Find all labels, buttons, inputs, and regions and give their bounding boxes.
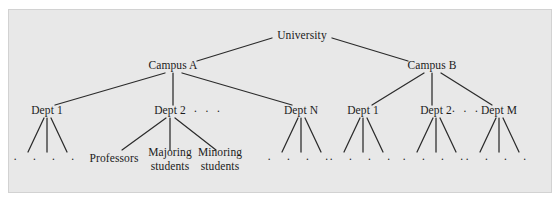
tree-diagram-figure: UniversityCampus ACampus BDept 1Dept 2De… [0, 0, 560, 203]
tree-node-dept: Dept M [481, 104, 517, 118]
tree-node-leaf: Majoringstudents [148, 146, 192, 173]
tree-node-campus: Campus A [148, 59, 197, 73]
leaf-dot-group: · · · · [13, 153, 80, 165]
tree-node-campus: Campus B [407, 59, 456, 73]
tree-node-dept: Dept N [284, 104, 318, 118]
leaf-dot-group: · · · · [465, 153, 532, 165]
tree-node-dept: Dept 1 [347, 104, 379, 118]
dept-ellipsis: · · · [193, 105, 222, 117]
tree-node-dept: Dept 2 [420, 104, 452, 118]
leaf-dot-group: · · · · [329, 153, 396, 165]
tree-node-dept: Dept 1 [31, 104, 63, 118]
tree-node-leaf: Minoringstudents [198, 146, 242, 173]
tree-node-dept: Dept 2 [154, 104, 186, 118]
tree-node-leaf: Professors [90, 152, 139, 166]
dept-ellipsis: · · · [451, 105, 480, 117]
leaf-dot-group: · · · · [402, 153, 469, 165]
leaf-dot-group: · · · · [267, 153, 334, 165]
tree-node-root: University [277, 29, 327, 43]
